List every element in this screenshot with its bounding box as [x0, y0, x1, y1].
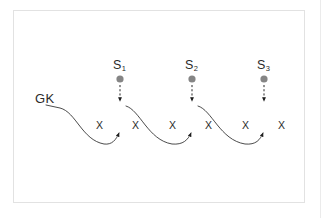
state-label-s1-name: S	[113, 58, 121, 72]
state-label-s1-subscript: 1	[122, 64, 126, 73]
state-label-s2-name: S	[185, 58, 193, 72]
state-label-s3: S3	[257, 59, 270, 72]
state-label-s1: S1	[113, 59, 126, 72]
observation-label-5: X	[242, 120, 249, 131]
observation-label-1: X	[96, 120, 103, 131]
state-label-s2: S2	[185, 59, 198, 72]
observation-label-2: X	[132, 120, 139, 131]
state-label-s2-subscript: 2	[194, 64, 198, 73]
observation-label-6: X	[278, 120, 285, 131]
figure-page: GK S1 S2 S3 X X X X X X	[0, 0, 331, 218]
page-edge-rule	[320, 0, 321, 218]
state-label-s3-name: S	[257, 58, 265, 72]
figure-frame	[13, 10, 305, 203]
state-label-s3-subscript: 3	[266, 64, 270, 73]
start-label-gk: GK	[35, 92, 55, 105]
observation-label-4: X	[205, 120, 212, 131]
observation-label-3: X	[169, 120, 176, 131]
